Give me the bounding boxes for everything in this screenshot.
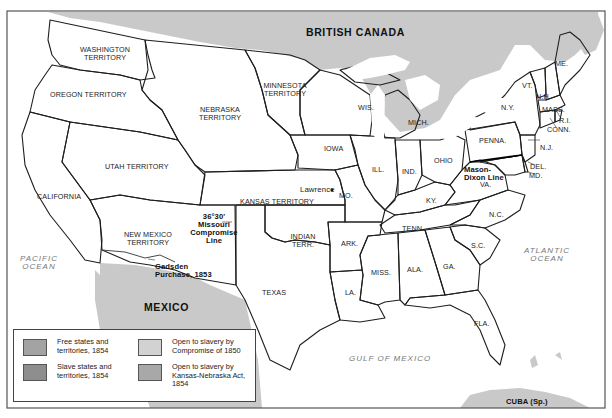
label-la: LA.	[345, 289, 356, 297]
label-miss: MISS.	[371, 269, 391, 277]
label-ny: N.Y.	[501, 104, 514, 112]
gadsden-label-line2: Purchase, 1853	[155, 271, 212, 279]
label-pacific-ocean: PACIFIC OCEAN	[18, 255, 60, 272]
label-ark: ARK.	[341, 240, 358, 248]
label-washington-territory: WASHINGTON TERRITORY	[78, 46, 132, 61]
legend-item-compromise-1850: Open to slavery by Compromise of 1850	[138, 338, 256, 356]
label-vt: VT.	[522, 82, 533, 90]
label-md: MD.	[529, 172, 542, 180]
legend-swatch-slave	[23, 364, 47, 381]
label-wis: WIS.	[358, 104, 374, 112]
label-ohio: OHIO	[434, 157, 453, 165]
label-kansas-territory: KANSAS TERRITORY	[240, 198, 314, 206]
label-sc: S.C.	[471, 242, 485, 250]
label-cuba: CUBA (Sp.)	[506, 398, 548, 406]
label-ala: ALA.	[407, 266, 423, 274]
label-california: CALIFORNIA	[37, 193, 81, 201]
label-new-mexico-territory: NEW MEXICO TERRITORY	[120, 231, 176, 246]
label-minnesota-territory: MINNESOTA TERRITORY	[255, 82, 315, 97]
label-ky: KY.	[426, 197, 437, 205]
legend-swatch-free	[23, 339, 47, 356]
legend-item-kansas-nebraska: Open to slavery by Kansas-Nebraska Act, …	[138, 363, 256, 389]
label-gulf-of-mexico: GULF OF MEXICO	[349, 355, 431, 363]
mason-dixon-label: Mason- Dixon Line	[464, 166, 504, 182]
missouri-label-line4: Line	[190, 237, 238, 245]
label-ill: ILL.	[372, 166, 384, 174]
mason-label-line2: Dixon Line	[464, 174, 504, 182]
label-va: VA.	[480, 181, 491, 189]
label-indian-territory: INDIAN TERR.	[286, 233, 320, 248]
missouri-compromise-label: 36°30' Missouri Compromise Line	[190, 213, 238, 245]
legend-label-slave: Slave states and territories, 1854	[57, 363, 133, 380]
label-nc: N.C.	[489, 211, 504, 219]
legend-label-kansas-nebraska: Open to slavery by Kansas-Nebraska Act, …	[172, 363, 256, 389]
label-mexico: MEXICO	[144, 302, 189, 313]
map-legend: Free states and territories, 1854 Slave …	[13, 329, 256, 402]
legend-label-free: Free states and territories, 1854	[57, 338, 133, 355]
legend-label-compromise-1850: Open to slavery by Compromise of 1850	[172, 338, 256, 355]
label-nebraska-territory: NEBRASKA TERRITORY	[194, 106, 246, 121]
label-ri: R.I.	[559, 117, 571, 125]
label-oregon-territory: OREGON TERRITORY	[50, 91, 127, 99]
legend-swatch-kansas-nebraska	[138, 364, 162, 381]
label-ind: IND.	[402, 168, 417, 176]
label-ga: GA.	[443, 263, 456, 271]
label-texas: TEXAS	[262, 289, 286, 297]
label-penna: PENNA.	[479, 137, 506, 145]
label-british-canada: BRITISH CANADA	[306, 27, 405, 38]
label-nh: N.H.	[536, 93, 551, 101]
label-del: DEL.	[530, 163, 546, 171]
label-nj: N.J.	[540, 144, 553, 152]
label-conn: CONN.	[547, 126, 571, 134]
legend-item-slave: Slave states and territories, 1854	[23, 363, 133, 381]
label-atlantic-ocean: ATLANTIC OCEAN	[522, 247, 572, 264]
gadsden-purchase-label: Gadsden Purchase, 1853	[155, 263, 212, 279]
label-lawrence: Lawrence	[300, 186, 335, 194]
label-me: ME.	[555, 60, 568, 68]
label-mich: MICH.	[408, 119, 429, 127]
legend-item-free: Free states and territories, 1854	[23, 338, 133, 356]
label-mo: MO.	[339, 192, 353, 200]
legend-swatch-compromise-1850	[138, 339, 162, 356]
label-tenn: TENN.	[402, 225, 424, 233]
label-mass: MASS.	[542, 106, 565, 114]
label-fla: FLA.	[474, 320, 490, 328]
label-iowa: IOWA	[324, 145, 343, 153]
label-utah-territory: UTAH TERRITORY	[105, 163, 169, 171]
